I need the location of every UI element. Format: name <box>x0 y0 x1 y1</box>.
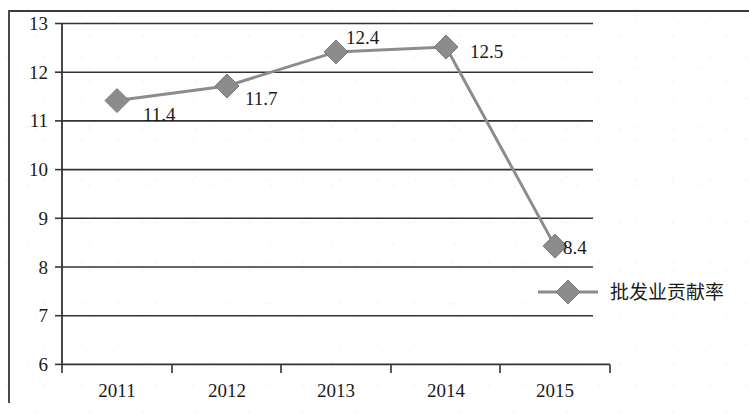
y-axis-tick-label-11: 11 <box>18 111 48 130</box>
y-axis-tick-label-6: 6 <box>18 355 48 374</box>
data-point-2013[interactable] <box>324 40 348 64</box>
data-label-2014: 12.5 <box>470 42 503 61</box>
y-tick-marks <box>55 24 62 365</box>
y-axis-tick-label-9: 9 <box>18 209 48 228</box>
data-point-2012[interactable] <box>215 74 239 98</box>
data-label-2013: 12.4 <box>346 28 379 47</box>
y-axis-tick-label-12: 12 <box>18 63 48 82</box>
data-point-2011[interactable] <box>105 89 129 113</box>
data-label-2011: 11.4 <box>143 105 176 124</box>
legend-marker <box>538 280 598 304</box>
x-axis-tick-label-2011: 2011 <box>82 381 152 400</box>
x-tick-marks <box>62 364 610 373</box>
x-axis-tick-label-2015: 2015 <box>520 381 590 400</box>
data-label-2012: 11.7 <box>245 89 278 108</box>
x-axis-tick-label-2013: 2013 <box>301 381 371 400</box>
data-point-2014[interactable] <box>434 35 458 59</box>
x-axis-tick-label-2014: 2014 <box>411 381 481 400</box>
y-axis-tick-label-13: 13 <box>18 14 48 33</box>
data-line-series-1 <box>117 47 555 246</box>
chart-plot-area <box>0 0 749 415</box>
y-axis-tick-label-8: 8 <box>18 258 48 277</box>
data-label-2015: 8.4 <box>563 238 587 257</box>
x-axis-tick-label-2012: 2012 <box>192 381 262 400</box>
line-chart: 13 12 11 10 9 8 7 6 2011 2012 2013 2014 … <box>0 0 749 415</box>
y-axis-tick-label-7: 7 <box>18 306 48 325</box>
y-axis-tick-label-10: 10 <box>18 160 48 179</box>
data-markers <box>105 35 567 258</box>
legend-item-label[interactable]: 批发业贡献率 <box>610 281 724 303</box>
